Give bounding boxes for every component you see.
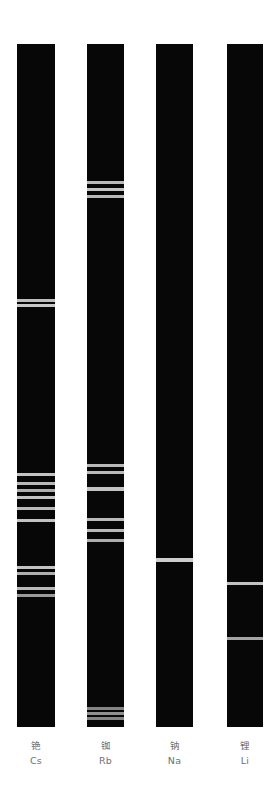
emission-line bbox=[87, 464, 124, 467]
emission-line bbox=[87, 471, 124, 474]
emission-line bbox=[17, 299, 55, 302]
emission-line bbox=[17, 566, 55, 569]
emission-line bbox=[87, 717, 124, 720]
element-label-chinese: 铯 bbox=[5, 740, 67, 752]
element-label-li: 锂Li bbox=[215, 740, 275, 767]
element-label-symbol: Rb bbox=[75, 755, 136, 767]
emission-line bbox=[87, 487, 124, 491]
spectrum-strip bbox=[17, 44, 55, 727]
emission-line bbox=[17, 482, 55, 485]
element-label-symbol: Na bbox=[144, 755, 205, 767]
spectrum-strip bbox=[156, 44, 193, 727]
element-label-chinese: 铷 bbox=[75, 740, 136, 752]
emission-line bbox=[87, 195, 124, 198]
emission-line bbox=[17, 572, 55, 575]
emission-line bbox=[87, 188, 124, 191]
element-label-symbol: Li bbox=[215, 755, 275, 767]
emission-line bbox=[87, 518, 124, 521]
emission-line bbox=[17, 489, 55, 492]
emission-line bbox=[17, 507, 55, 510]
emission-line bbox=[227, 637, 263, 640]
emission-line bbox=[156, 558, 193, 562]
emission-line bbox=[87, 181, 124, 184]
element-label-chinese: 钠 bbox=[144, 740, 205, 752]
emission-line bbox=[17, 304, 55, 307]
element-label-chinese: 锂 bbox=[215, 740, 275, 752]
emission-line bbox=[17, 587, 55, 590]
spectrum-column-li bbox=[227, 44, 263, 727]
emission-line bbox=[17, 594, 55, 597]
emission-line bbox=[87, 712, 124, 715]
spectrum-strip bbox=[227, 44, 263, 727]
spectrum-column-rb bbox=[87, 44, 124, 727]
element-label-rb: 铷Rb bbox=[75, 740, 136, 767]
emission-line bbox=[87, 539, 124, 542]
emission-line bbox=[227, 582, 263, 585]
spectrum-strip bbox=[87, 44, 124, 727]
emission-line bbox=[17, 473, 55, 476]
emission-line bbox=[17, 496, 55, 499]
emission-line bbox=[87, 707, 124, 710]
spectrum-column-cs bbox=[17, 44, 55, 727]
emission-line bbox=[17, 519, 55, 522]
emission-line bbox=[87, 529, 124, 532]
element-label-symbol: Cs bbox=[5, 755, 67, 767]
element-label-na: 钠Na bbox=[144, 740, 205, 767]
spectrum-column-na bbox=[156, 44, 193, 727]
element-label-cs: 铯Cs bbox=[5, 740, 67, 767]
spectra-figure: 铯Cs铷Rb钠Na锂Li bbox=[0, 0, 279, 805]
